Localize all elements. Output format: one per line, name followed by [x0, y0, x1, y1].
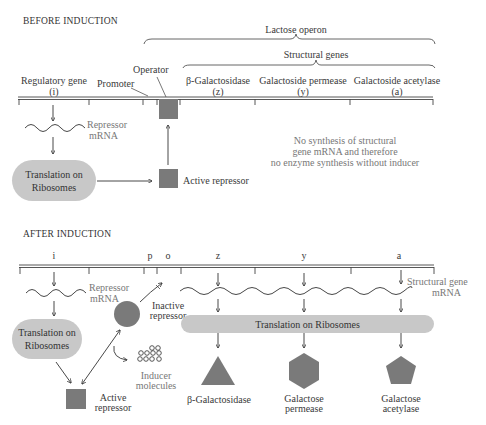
gene-letter-z: z — [213, 250, 223, 261]
lactose-operon-brace — [144, 34, 435, 44]
operator-pointer — [157, 77, 166, 97]
promoter-label: Promoter — [97, 78, 134, 89]
arrow-active-inactive — [82, 330, 120, 384]
inducer-label-2: molecules — [133, 380, 179, 391]
note-line-1: No synthesis of structural — [260, 135, 430, 146]
regulatory-gene-label: Regulatory gene — [14, 75, 94, 86]
translation-bar: Translation on Ribosomes — [181, 315, 434, 333]
gene-a-name: Galactoside acetylase — [351, 75, 443, 86]
gene-y-code: (y) — [257, 86, 349, 97]
structural-mrna-label-1: Structural gene — [407, 276, 468, 287]
galactose-acetylase-pentagon-icon — [386, 356, 416, 384]
beta-galactosidase-triangle-icon — [201, 356, 235, 385]
translation-after-line1: Translation on — [18, 327, 76, 338]
active-repressor-label-before: Active repressor — [183, 175, 249, 186]
gene-z-code: (z) — [182, 86, 254, 97]
translation-after-line2: Ribosomes — [25, 340, 69, 351]
gene-z-name: β-Galactosidase — [182, 75, 254, 86]
after-induction-title: AFTER INDUCTION — [23, 229, 111, 240]
gene-letter-i: i — [48, 250, 60, 261]
repressor-mrna-wave-before — [25, 125, 85, 132]
dna-before — [18, 97, 433, 105]
active-repressor-before — [159, 169, 178, 188]
repressor-mrna-label-before-1: Repressor — [87, 119, 127, 130]
inactive-repressor — [114, 301, 140, 327]
galactose-permease-hexagon-icon — [289, 353, 319, 389]
repressor-mrna-wave-after — [26, 290, 86, 297]
promoter-pointer — [131, 88, 148, 96]
translation-line1: Translation on — [25, 169, 83, 180]
gene-letter-p: p — [145, 250, 155, 261]
note-line-3: no enzyme synthesis without inducer — [260, 157, 430, 168]
product-galactose-acetylase-label-2: acetylase — [371, 403, 431, 414]
arrow-inducer — [114, 346, 127, 360]
before-induction-title: BEFORE INDUCTION — [23, 16, 118, 27]
translation-ribosomes-before: Translation onRibosomes — [12, 160, 96, 201]
gene-letter-a: a — [394, 250, 404, 261]
active-repressor-after — [66, 389, 86, 409]
gene-a-code: (a) — [351, 86, 443, 97]
repressor-mrna-label-after-1: Repressor — [89, 282, 129, 293]
repressor-mrna-label-before-2: mRNA — [89, 130, 118, 141]
note-line-2: gene mRNA and therefore — [260, 146, 430, 157]
translation-ribosomes-after: Translation onRibosomes — [12, 319, 82, 359]
regulatory-gene-code: (i) — [14, 86, 94, 97]
gene-y-name: Galactoside permease — [257, 75, 349, 86]
structural-genes-brace — [183, 60, 435, 68]
gene-letter-o: o — [163, 250, 173, 261]
operator-bound-repressor — [159, 99, 178, 119]
product-galactose-permease-label-2: permease — [274, 403, 334, 414]
dna-after — [19, 265, 434, 274]
diagram-graphics — [0, 0, 486, 425]
lactose-operon-label: Lactose operon — [246, 24, 346, 35]
repressor-mrna-label-after-2: mRNA — [90, 293, 119, 304]
translation-line2: Ribosomes — [32, 182, 76, 193]
structural-genes-label: Structural genes — [266, 49, 366, 60]
structural-mrna-wave — [180, 287, 412, 295]
active-repressor-label-after-2: repressor — [90, 402, 136, 413]
structural-mrna-label-2: mRNA — [432, 287, 461, 298]
inducer-molecules-icon — [138, 346, 162, 362]
arrow-ribosome-to-active — [56, 362, 71, 383]
translation-bar-label: Translation on Ribosomes — [255, 318, 360, 331]
operator-label: Operator — [133, 64, 169, 75]
product-beta-galactosidase-label: β-Galactosidase — [183, 394, 255, 405]
gene-letter-y: y — [299, 250, 309, 261]
